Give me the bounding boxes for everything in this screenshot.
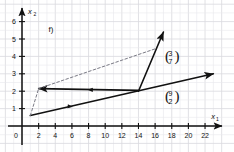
x-tick-label: 2	[37, 132, 41, 139]
y-tick-label: 4	[12, 53, 16, 60]
y-axis-label-subscript: 2	[34, 11, 37, 17]
y-tick-label: 2	[12, 88, 16, 95]
x-tick-label: 4	[53, 132, 57, 139]
x-tick-label: 18	[168, 132, 176, 139]
x-tick-label: 20	[185, 132, 193, 139]
y-tick-label: 6	[12, 18, 16, 25]
y-tick-label: 5	[12, 36, 16, 43]
x-tick-label: 12	[118, 132, 126, 139]
x-tick-label: 6	[70, 132, 74, 139]
vector-diagram: 2468101214161820221234560x1x2()37()92f)	[0, 0, 234, 152]
vector-label-3-7: ()37	[165, 48, 180, 65]
y-tick-label: 1	[12, 105, 16, 112]
vector-component-top: 9	[169, 90, 173, 97]
right-paren: )	[174, 88, 179, 105]
x-tick-label: 14	[135, 132, 143, 139]
x-tick-label: 8	[87, 132, 91, 139]
vector-component-top: 3	[169, 50, 173, 57]
y-tick-label: 3	[12, 70, 16, 77]
coordinate-plot: 2468101214161820221234560x1x2()37()92f)	[0, 0, 234, 152]
x-axis-label-subscript: 1	[216, 116, 219, 122]
x-tick-label: 22	[201, 132, 209, 139]
problem-label: f)	[49, 25, 54, 34]
x-tick-label: 10	[101, 132, 109, 139]
vector-component-bottom: 2	[169, 98, 173, 105]
vector-label-9-2: ()92	[165, 88, 180, 105]
x-tick-label: 16	[151, 132, 159, 139]
x-axis-label: x	[210, 112, 215, 121]
origin-label: 0	[14, 132, 18, 139]
y-axis-label: x	[27, 7, 32, 16]
plot-background	[0, 0, 234, 152]
vector-component-bottom: 7	[169, 58, 173, 65]
right-paren: )	[174, 48, 179, 65]
